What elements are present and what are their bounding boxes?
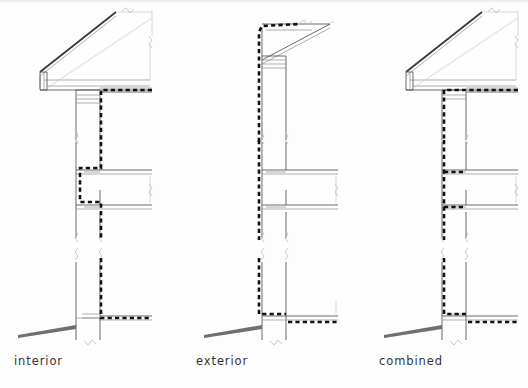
column-exterior	[204, 20, 338, 345]
interior-foundation-slab-detail	[18, 248, 152, 345]
exterior-roof-eave-detail	[259, 20, 334, 144]
interior-floor-band-detail	[75, 130, 152, 242]
wall-section-drawings: .ln{stroke:#5a5a5a;stroke-width:0.9;fill…	[0, 0, 528, 388]
caption-exterior: exterior	[196, 354, 248, 368]
column-interior	[18, 8, 152, 345]
combined-floor-band-detail	[441, 140, 518, 242]
column-combined	[384, 8, 518, 345]
caption-combined: combined	[379, 354, 443, 368]
air-barrier-line	[444, 258, 466, 314]
exterior-foundation-slab-detail	[204, 248, 338, 345]
air-barrier-line	[259, 258, 286, 314]
drawing-sheet: .ln{stroke:#5a5a5a;stroke-width:0.9;fill…	[0, 0, 528, 388]
exterior-floor-band-detail	[259, 140, 338, 242]
combined-roof-eave-detail	[406, 8, 518, 144]
air-barrier-line	[80, 142, 101, 240]
caption-interior: interior	[14, 354, 63, 368]
combined-foundation-slab-detail	[384, 248, 518, 345]
air-barrier-line	[259, 24, 300, 142]
air-barrier-line	[101, 258, 152, 318]
air-barrier-line	[444, 90, 518, 142]
air-barrier-line	[101, 90, 152, 142]
interior-roof-eave-detail	[40, 8, 152, 144]
